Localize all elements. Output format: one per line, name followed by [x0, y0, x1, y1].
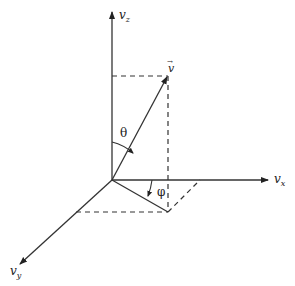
x-axis-label: vx [274, 172, 286, 188]
theta-label: θ [120, 126, 127, 140]
y-axis-label: vy [10, 264, 22, 280]
phi-arc [148, 180, 152, 196]
z-axis-label: vz [119, 8, 131, 24]
velocity-diagram: θ φ vz vx vy v → [0, 0, 295, 286]
vector-accent: → [167, 58, 173, 66]
phi-label: φ [157, 185, 165, 199]
dashed-guides [76, 76, 200, 212]
diagram-canvas: θ φ vz vx vy v → [0, 0, 295, 286]
y-axis [20, 180, 112, 264]
